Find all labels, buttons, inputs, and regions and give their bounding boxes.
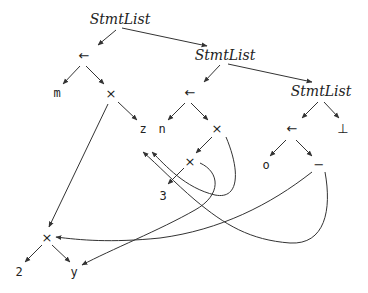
node-o: o — [262, 159, 269, 171]
edge-stmtlist3-assign3 — [302, 102, 318, 118]
edge-stmtlist2-assign2 — [204, 65, 220, 82]
node-z: z — [139, 123, 146, 135]
node-stmtlist-2: StmtList — [195, 48, 256, 62]
edge-minus-times4 — [56, 172, 312, 241]
edge-times3-y — [82, 163, 215, 265]
edge-times1-z — [118, 102, 137, 120]
node-three: 3 — [159, 190, 166, 202]
node-n: n — [158, 123, 165, 135]
edge-assign3-o — [270, 140, 286, 156]
node-two: 2 — [15, 266, 22, 278]
edge-stmtlist2-stmtlist3 — [228, 64, 312, 82]
edge-stmtlist1-stmtlist2 — [122, 28, 207, 46]
edges-layer — [0, 0, 368, 293]
node-bottom: ⊥ — [337, 122, 348, 135]
node-assign-3: ← — [287, 122, 298, 135]
node-stmtlist-1: StmtList — [90, 12, 151, 26]
edge-assign3-minus — [296, 140, 312, 156]
edge-stmtlist3-bottom — [324, 102, 339, 118]
edge-assign1-times1 — [86, 66, 104, 84]
node-times-1: × — [106, 87, 117, 100]
edge-stmtlist1-assign1 — [98, 30, 116, 45]
edge-assign2-n — [168, 103, 185, 120]
node-m: m — [53, 87, 60, 99]
node-y: y — [70, 266, 77, 278]
edge-times1-times4 — [49, 104, 108, 227]
node-assign-1: ← — [79, 49, 90, 62]
node-assign-2: ← — [185, 86, 196, 99]
node-minus: − — [314, 158, 325, 171]
edge-assign2-times2 — [191, 103, 208, 120]
edge-times2-times3 — [196, 137, 212, 153]
edge-times4-two — [25, 245, 42, 262]
node-times-3: × — [185, 155, 196, 168]
node-times-4: × — [42, 231, 53, 244]
edge-assign1-m — [63, 66, 80, 84]
node-stmtlist-3: StmtList — [291, 84, 352, 98]
node-times-2: × — [212, 122, 223, 135]
edge-times4-y — [52, 245, 70, 262]
diagram-canvas: StmtList StmtList StmtList ← ← ← m × z n… — [0, 0, 368, 293]
